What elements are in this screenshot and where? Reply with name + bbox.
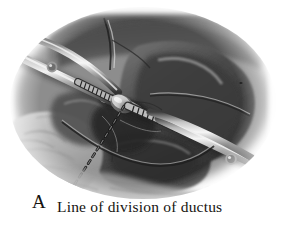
- illustration-canvas: [0, 0, 281, 227]
- top-fade: [0, 0, 281, 14]
- paper-vignette: [0, 0, 281, 227]
- bottom-fade: [0, 213, 281, 227]
- right-fade: [269, 0, 281, 227]
- surgical-illustration-figure: A Line of division of ductus: [0, 0, 281, 227]
- left-fade: [0, 0, 12, 227]
